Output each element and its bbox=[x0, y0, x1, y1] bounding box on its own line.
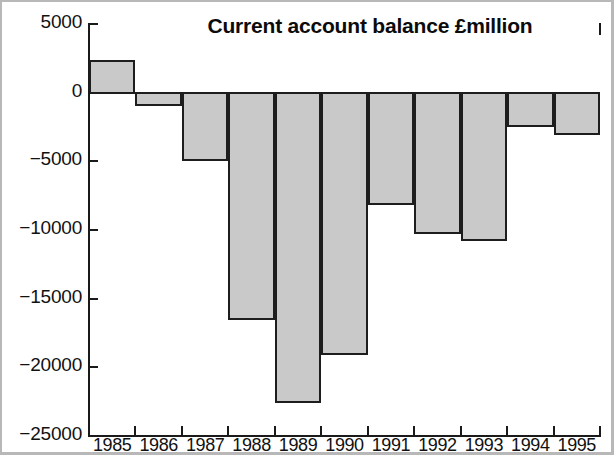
bar-1988 bbox=[228, 92, 274, 321]
bar-1985 bbox=[89, 60, 135, 94]
y-tick-label: 5000 bbox=[0, 11, 82, 33]
zero-baseline bbox=[89, 92, 600, 94]
bar-1990 bbox=[321, 92, 367, 355]
bar-1989 bbox=[275, 92, 321, 403]
x-axis-right-cap bbox=[599, 23, 601, 35]
y-tick-label: −25000 bbox=[0, 423, 82, 445]
bar-1991 bbox=[368, 92, 414, 205]
bar-1994 bbox=[507, 92, 553, 127]
bar-1993 bbox=[461, 92, 507, 241]
y-tick-label: −10000 bbox=[0, 217, 82, 239]
bar-1992 bbox=[414, 92, 460, 234]
x-tick-label-1986: 1986 bbox=[135, 435, 181, 455]
bar-1995 bbox=[554, 92, 600, 135]
bar-1986 bbox=[135, 92, 181, 106]
x-tick-label-1992: 1992 bbox=[414, 435, 460, 455]
y-tick-0 bbox=[89, 23, 98, 25]
y-tick-label: 0 bbox=[0, 80, 82, 102]
x-tick-label-1991: 1991 bbox=[368, 435, 414, 455]
y-tick-3 bbox=[89, 229, 98, 231]
x-tick-label-1995: 1995 bbox=[554, 435, 600, 455]
x-tick-label-1993: 1993 bbox=[461, 435, 507, 455]
x-tick-label-1994: 1994 bbox=[507, 435, 553, 455]
x-tick-label-1985: 1985 bbox=[89, 435, 135, 455]
y-tick-2 bbox=[89, 160, 98, 162]
y-tick-label: −20000 bbox=[0, 354, 82, 376]
x-tick-label-1988: 1988 bbox=[228, 435, 274, 455]
x-tick-label-1987: 1987 bbox=[182, 435, 228, 455]
y-tick-5 bbox=[89, 366, 98, 368]
chart-figure: Current account balance £million 50000−5… bbox=[0, 0, 614, 455]
x-tick-label-1989: 1989 bbox=[275, 435, 321, 455]
y-tick-4 bbox=[89, 298, 98, 300]
figure-border-top bbox=[0, 0, 614, 2]
chart-title: Current account balance £million bbox=[150, 14, 590, 38]
y-tick-label: −5000 bbox=[0, 148, 82, 170]
y-tick-label: −15000 bbox=[0, 286, 82, 308]
bar-1987 bbox=[182, 92, 228, 161]
x-tick-label-1990: 1990 bbox=[321, 435, 367, 455]
